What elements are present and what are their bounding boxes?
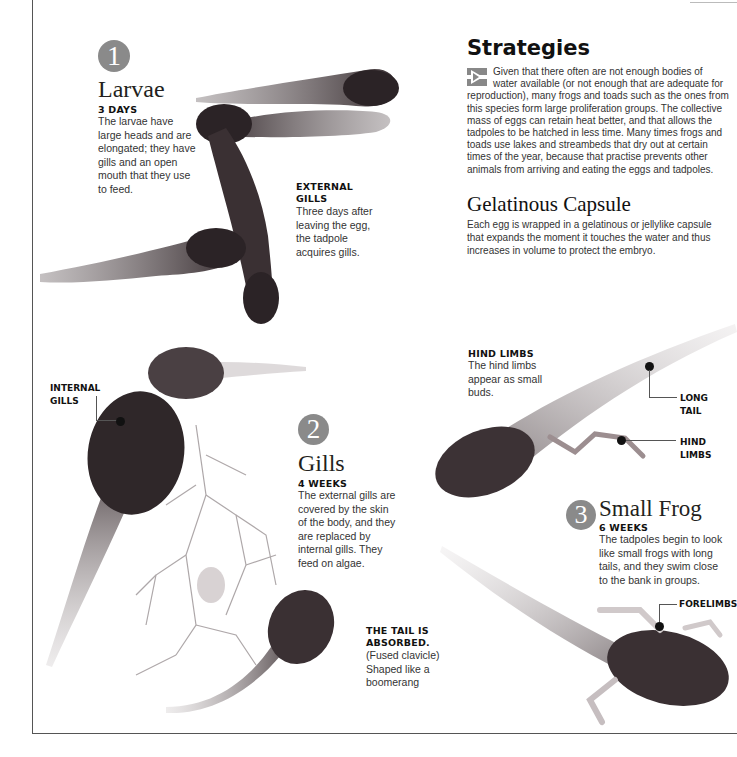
- stage-3-title: Small Frog: [599, 496, 702, 522]
- strategies-heading: Strategies: [467, 36, 590, 60]
- external-gills-annotation: EXTERNAL GILLS Three days after leaving …: [296, 181, 386, 259]
- arrow-bullet-icon: [467, 68, 487, 86]
- strategies-paragraph: Given that there often are not enough bo…: [467, 66, 729, 176]
- external-gills-title: EXTERNAL GILLS: [296, 181, 356, 205]
- forelimbs-label: FORELIMBS: [679, 598, 737, 611]
- forelimbs-marker: [655, 622, 664, 631]
- external-gills-description: Three days after leaving the egg, the ta…: [296, 205, 386, 259]
- forelimbs-leader: [659, 604, 677, 622]
- stage-1-number-badge: 1: [98, 40, 130, 72]
- stage-2-number-badge: 2: [298, 414, 329, 445]
- capsule-paragraph: Each egg is wrapped in a gelatinous or j…: [467, 218, 729, 257]
- stage-1-description: The larvae have large heads and are elon…: [98, 115, 198, 196]
- hind-limbs-label: HIND LIMBS: [680, 436, 720, 462]
- stage-2-time: 4 WEEKS: [298, 478, 400, 489]
- internal-gills-leader: [96, 396, 118, 421]
- stage-3-number-badge: 3: [566, 500, 596, 530]
- stage-1-title: Larvae: [98, 76, 165, 103]
- hind-limbs-note: HIND LIMBS The hind limbs appear as smal…: [468, 348, 548, 400]
- hind-limbs-note-description: The hind limbs appear as small buds.: [468, 359, 548, 400]
- small-frog-photo: [440, 540, 737, 730]
- hind-limbs-marker: [617, 436, 626, 445]
- frame-top-rule: [690, 2, 737, 3]
- stage-3-time: 6 WEEKS: [599, 522, 724, 533]
- stage-2-description: The external gills are covered by the sk…: [298, 489, 400, 570]
- stage-2-text: 4 WEEKS The external gills are covered b…: [298, 478, 400, 570]
- stage-1-text: 3 DAYS The larvae have large heads and a…: [98, 104, 198, 196]
- capsule-heading: Gelatinous Capsule: [467, 192, 631, 217]
- hind-limbs-note-title: HIND LIMBS: [468, 348, 548, 359]
- internal-gills-marker: [116, 417, 125, 426]
- stage-2-title: Gills: [298, 450, 345, 477]
- stage-1-time: 3 DAYS: [98, 104, 198, 115]
- long-tail-label: LONG TAIL: [680, 392, 720, 418]
- frame-bottom-rule: [32, 733, 737, 734]
- long-tail-leader: [649, 370, 677, 398]
- frame-left-rule: [32, 0, 33, 734]
- hind-limbs-leader: [626, 440, 676, 441]
